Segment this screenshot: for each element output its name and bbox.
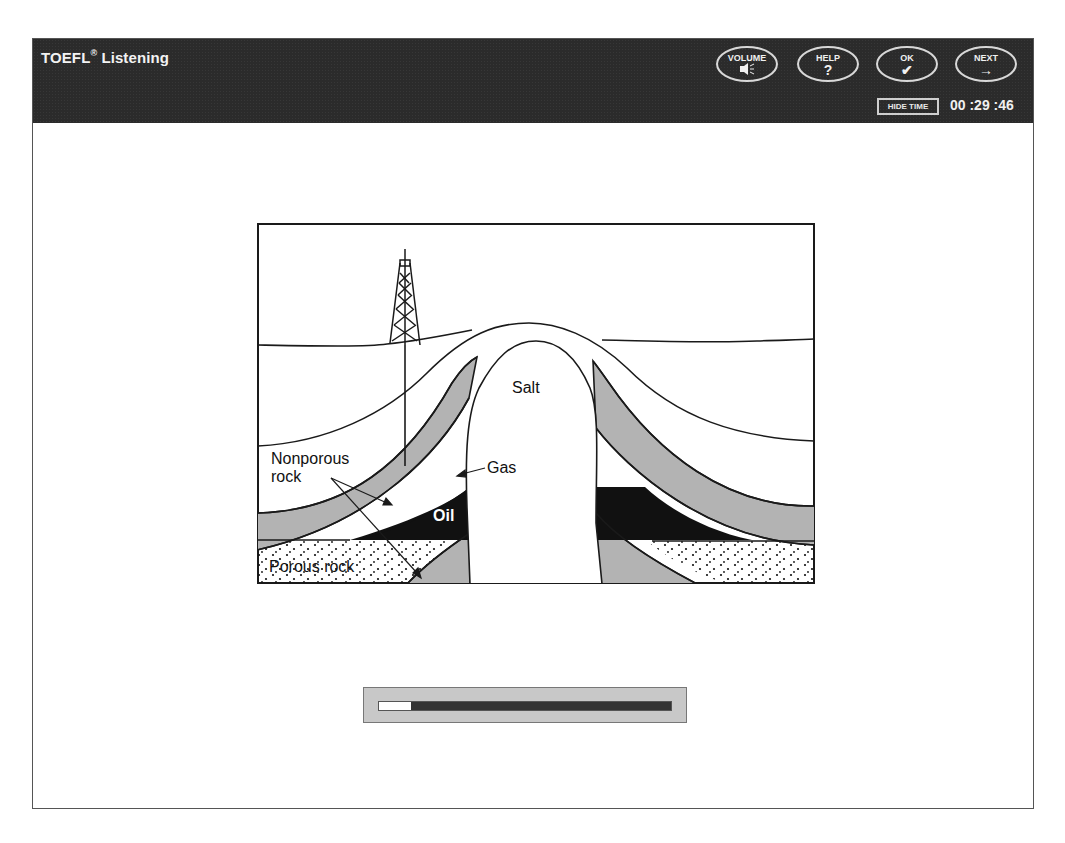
porous-rock-label: Porous rock — [269, 558, 355, 575]
audio-progress-fill — [379, 702, 411, 710]
help-button[interactable]: HELP ? — [797, 46, 859, 82]
app-title: TOEFL® Listening — [41, 49, 169, 66]
ok-button[interactable]: OK ✔ — [876, 46, 938, 82]
salt-label: Salt — [512, 379, 540, 396]
volume-label: VOLUME — [718, 53, 776, 63]
question-icon: ? — [799, 63, 857, 77]
volume-button[interactable]: VOLUME — [716, 46, 778, 82]
next-button[interactable]: NEXT → — [955, 46, 1017, 82]
arrow-right-icon: → — [957, 63, 1015, 77]
gas-label: Gas — [487, 459, 516, 476]
countdown-timer: 00 :29 :46 — [950, 97, 1014, 113]
speaker-icon — [718, 63, 776, 77]
checkmark-icon: ✔ — [878, 63, 936, 77]
test-window: TOEFL® Listening VOLUME HELP ? OK ✔ NEXT… — [32, 38, 1034, 809]
hide-time-button[interactable]: HIDE TIME — [877, 98, 939, 115]
audio-progress-bar — [378, 701, 672, 711]
audio-progress-panel — [363, 687, 687, 723]
nonporous-label-2: rock — [271, 468, 302, 485]
nonporous-label-1: Nonporous — [271, 450, 349, 467]
header-bar: TOEFL® Listening VOLUME HELP ? OK ✔ NEXT… — [33, 39, 1033, 123]
oil-label: Oil — [433, 507, 454, 524]
salt-dome-diagram: Salt Gas Oil Nonporous rock Porous rock — [257, 223, 815, 584]
